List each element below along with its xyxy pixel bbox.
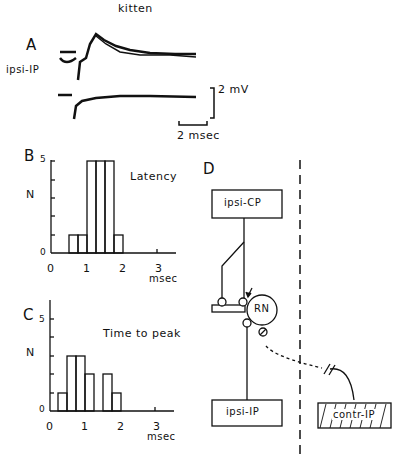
histogram-time-to-peak [50, 300, 174, 411]
x-axis-label: msec [149, 273, 178, 284]
box-ipsi-cp: ipsi-CP [224, 197, 261, 208]
chart-title: Time to peak [103, 327, 181, 340]
scale-bar-time [179, 121, 207, 125]
xtick-0: 0 [46, 420, 54, 433]
y-axis-label: N [26, 346, 35, 359]
xtick-1: 1 [81, 420, 89, 433]
box-ipsi-ip: ipsi-IP [226, 406, 259, 417]
trace-upper [60, 34, 196, 80]
ytick-0: 0 [39, 404, 45, 414]
xtick-0: 0 [47, 262, 55, 275]
figure-graphics [0, 0, 404, 454]
neuron-rn: RN [254, 303, 269, 314]
panel-d-label: D [203, 160, 215, 178]
y-axis-label: N [26, 188, 35, 201]
x-axis-label: msec [147, 431, 176, 442]
xtick-1: 1 [83, 262, 91, 275]
panel-c-label: C [23, 306, 33, 324]
xtick-2: 2 [117, 420, 125, 433]
xtick-2: 2 [119, 262, 127, 275]
trace-lower [58, 95, 196, 119]
chart-title: Latency [130, 170, 177, 183]
scale-bar-voltage [210, 88, 214, 118]
ytick-0: 0 [40, 247, 46, 257]
panel-b-label: B [24, 147, 34, 165]
box-contr-ip: contr-IP [332, 409, 376, 420]
ytick-5: 5 [40, 154, 46, 164]
ytick-5: 5 [39, 314, 45, 324]
